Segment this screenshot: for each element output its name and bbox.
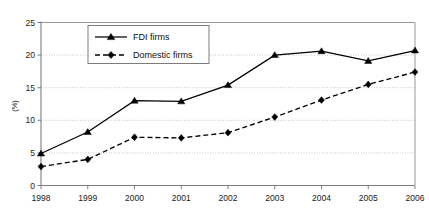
x-tick-label: 2003 [265, 193, 284, 203]
data-point [411, 47, 418, 53]
x-tick-label: 1998 [32, 193, 51, 203]
data-point [85, 156, 91, 163]
x-tick-label: 2001 [172, 193, 191, 203]
data-point [225, 129, 231, 136]
x-tick-group: 199819992000200120022003200420052006 [32, 186, 425, 203]
data-point [318, 48, 325, 54]
x-tick-label: 2006 [406, 193, 425, 203]
data-point [38, 163, 44, 170]
legend: FDI firmsDomestic firms [88, 26, 209, 64]
y-tick-label: 10 [26, 115, 36, 125]
y-tick-label: 25 [26, 18, 36, 28]
y-axis: 0510152025 [26, 18, 41, 191]
x-tick-label: 1999 [78, 193, 97, 203]
data-series-layer [37, 47, 418, 170]
data-point [132, 134, 138, 141]
x-tick-label: 2005 [359, 193, 378, 203]
data-point [272, 114, 278, 121]
data-point [319, 97, 325, 104]
data-point [365, 81, 371, 88]
x-tick-label: 2000 [125, 193, 144, 203]
data-point [412, 69, 418, 76]
y-axis-title: (%) [10, 100, 19, 112]
legend-label: FDI firms [133, 32, 170, 42]
series-line [41, 51, 415, 154]
data-point [224, 82, 231, 88]
y-tick-label: 15 [26, 83, 36, 93]
x-axis: 199819992000200120022003200420052006 [32, 186, 425, 203]
data-point [178, 135, 184, 142]
x-tick-label: 2004 [312, 193, 331, 203]
y-tick-label: 5 [30, 148, 35, 158]
y-tick-label: 0 [30, 181, 35, 191]
chart-canvas: 0510152025 19981999200020012002200320042… [0, 0, 429, 216]
line-chart: 0510152025 19981999200020012002200320042… [0, 0, 429, 216]
data-point [84, 129, 91, 135]
y-tick-group: 0510152025 [26, 18, 41, 191]
legend-label: Domestic firms [133, 50, 193, 60]
y-tick-label: 20 [26, 50, 36, 60]
x-tick-label: 2002 [219, 193, 238, 203]
